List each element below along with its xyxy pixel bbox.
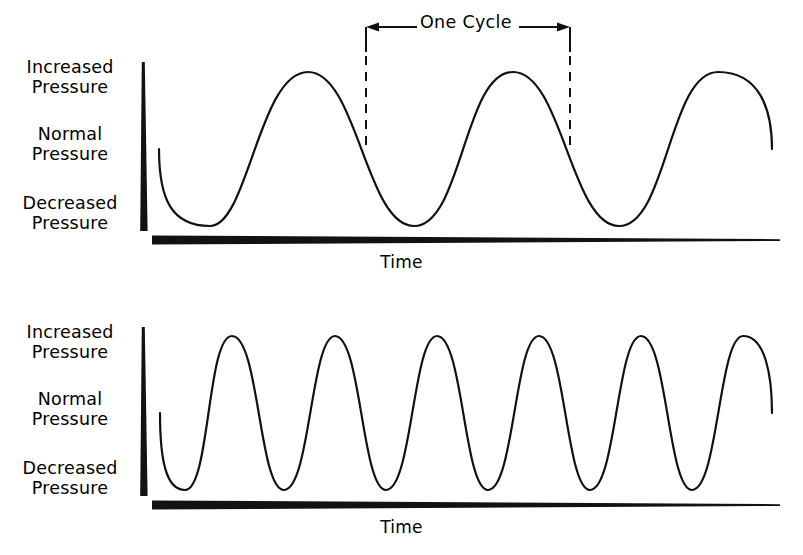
low-frequency-wave-curve bbox=[159, 72, 772, 226]
bottom-panel-plot bbox=[0, 275, 803, 555]
high-frequency-wave-curve bbox=[160, 336, 772, 490]
cycle-right-arrowhead bbox=[557, 22, 570, 31]
cycle-left-arrowhead bbox=[366, 22, 379, 31]
x-axis-label-time-bottom: Time bbox=[0, 517, 803, 537]
x-axis-wedge-bottom bbox=[152, 501, 780, 510]
x-axis-label-time-top: Time bbox=[0, 252, 803, 272]
y-axis-wedge-top bbox=[140, 62, 147, 231]
pressure-wave-figure: Increased Pressure Normal Pressure Decre… bbox=[0, 0, 803, 555]
top-panel-plot bbox=[0, 0, 803, 280]
y-axis-wedge-bottom bbox=[140, 327, 147, 496]
x-axis-wedge-top bbox=[152, 236, 780, 245]
